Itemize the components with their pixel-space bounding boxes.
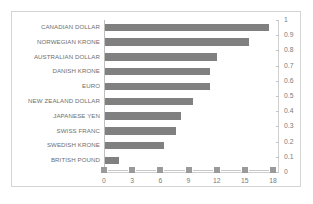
bar xyxy=(105,24,269,31)
y2-tick-marker xyxy=(276,66,279,67)
y2-tick-marker xyxy=(276,20,279,21)
y2-axis-tick-label: 0.4 xyxy=(284,107,293,114)
category-label: EURO xyxy=(82,79,100,94)
y2-tick-marker xyxy=(276,126,279,127)
x-axis-tick-label: 18 xyxy=(269,177,277,184)
x-axis-tick-label: 0 xyxy=(102,177,106,184)
bar xyxy=(105,38,249,45)
bar-row: NEW ZEALAND DOLLAR xyxy=(104,94,273,109)
y2-axis-tick-label: 0.2 xyxy=(284,138,293,145)
bar-row: SWEDISH KRONE xyxy=(104,138,273,153)
category-label: NORWEGIAN KRONE xyxy=(37,35,100,50)
bar xyxy=(105,127,176,134)
y2-tick-marker xyxy=(276,96,279,97)
bar xyxy=(105,53,217,60)
y2-axis-tick-label: 0.3 xyxy=(284,122,293,129)
y2-axis-tick-label: 0.9 xyxy=(284,31,293,38)
x-axis-tick-label: 6 xyxy=(158,177,162,184)
y2-tick-marker xyxy=(276,35,279,36)
x-tick-marker xyxy=(129,167,135,173)
y2-axis-tick-label: 0.1 xyxy=(284,153,293,160)
category-label: SWEDISH KRONE xyxy=(47,138,100,153)
x-tick-connector xyxy=(170,170,185,171)
x-tick-marker xyxy=(186,167,192,173)
bar xyxy=(105,68,210,75)
y2-tick-marker xyxy=(276,157,279,158)
bar-row: NORWEGIAN KRONE xyxy=(104,35,273,50)
bar-row: CANADIAN DOLLAR xyxy=(104,20,273,35)
category-label: BRITISH POUND xyxy=(51,153,100,168)
x-axis-tick-label: 9 xyxy=(187,177,191,184)
y2-axis-tick-label: 0.6 xyxy=(284,77,293,84)
y2-tick-marker xyxy=(276,111,279,112)
category-label: NEW ZEALAND DOLLAR xyxy=(28,94,100,109)
y2-tick-marker xyxy=(276,172,279,173)
x-tick-connector xyxy=(113,170,128,171)
x-axis-tick-label: 3 xyxy=(130,177,134,184)
bar-row: JAPANESE YEN xyxy=(104,109,273,124)
x-axis-tick-label: 15 xyxy=(241,177,249,184)
category-label: JAPANESE YEN xyxy=(53,109,100,124)
y2-tick-marker xyxy=(276,81,279,82)
bar xyxy=(105,157,119,164)
bar-row: DANISH KRONE xyxy=(104,64,273,79)
y2-axis-tick-label: 0 xyxy=(284,168,288,175)
y2-axis-tick-label: 0.8 xyxy=(284,46,293,53)
y2-tick-marker xyxy=(276,50,279,51)
category-label: SWISS FRANC xyxy=(57,124,100,139)
x-tick-connector xyxy=(198,170,213,171)
x-tick-marker xyxy=(157,167,163,173)
chart-frame: CANADIAN DOLLARNORWEGIAN KRONEAUSTRALIAN… xyxy=(11,11,301,187)
category-label: DANISH KRONE xyxy=(52,64,100,79)
bar xyxy=(105,142,164,149)
y2-axis-tick-label: 0.7 xyxy=(284,62,293,69)
x-tick-marker xyxy=(101,167,107,173)
x-tick-marker xyxy=(214,167,220,173)
category-label: CANADIAN DOLLAR xyxy=(41,20,100,35)
y2-axis-tick-label: 1 xyxy=(284,16,288,23)
x-tick-marker xyxy=(242,167,248,173)
bar xyxy=(105,98,193,105)
x-tick-connector xyxy=(254,170,269,171)
bar xyxy=(105,83,210,90)
category-label: AUSTRALIAN DOLLAR xyxy=(34,50,100,65)
bar-row: AUSTRALIAN DOLLAR xyxy=(104,50,273,65)
x-tick-connector xyxy=(226,170,241,171)
bar-row: BRITISH POUND xyxy=(104,153,273,168)
x-axis-tick-label: 12 xyxy=(213,177,221,184)
secondary-value-axis: 00.10.20.30.40.50.60.70.80.91 xyxy=(278,20,300,172)
bar-row: SWISS FRANC xyxy=(104,124,273,139)
plot-area: CANADIAN DOLLARNORWEGIAN KRONEAUSTRALIAN… xyxy=(104,20,273,168)
x-tick-connector xyxy=(141,170,156,171)
bar xyxy=(105,112,181,119)
bar-row: EURO xyxy=(104,79,273,94)
y2-axis-tick-label: 0.5 xyxy=(284,92,293,99)
x-tick-marker xyxy=(270,167,276,173)
y2-tick-marker xyxy=(276,142,279,143)
